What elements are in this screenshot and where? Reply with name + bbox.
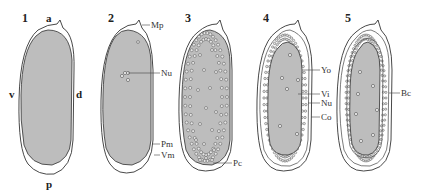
nucleus	[219, 122, 222, 125]
nucleus	[358, 70, 361, 73]
nucleus	[275, 39, 277, 41]
nucleus	[264, 116, 266, 118]
nucleus	[305, 103, 307, 105]
nucleus	[370, 40, 372, 42]
nucleus	[216, 137, 219, 140]
label-co: Co	[321, 112, 332, 122]
nucleus	[292, 154, 294, 156]
nucleus	[265, 122, 267, 124]
nucleus	[385, 86, 387, 88]
nucleus	[377, 48, 379, 50]
nucleus	[189, 105, 192, 108]
panel-number-3: 3	[185, 11, 191, 25]
nucleus	[354, 112, 357, 115]
nucleus	[195, 39, 198, 42]
nucleus	[221, 96, 224, 99]
nucleus	[199, 123, 202, 126]
panel-number-5: 5	[345, 11, 351, 25]
nucleus	[295, 132, 298, 135]
nucleus	[224, 70, 227, 73]
panel-1: 1 a v d p	[9, 11, 82, 190]
nucleus	[190, 122, 193, 125]
nucleus	[198, 35, 201, 38]
nucleus	[205, 107, 208, 110]
nucleus	[379, 51, 381, 53]
nucleus	[184, 96, 187, 99]
nucleus	[277, 37, 279, 39]
label-nu: Nu	[321, 98, 332, 108]
nucleus	[371, 84, 374, 87]
nucleus	[263, 110, 265, 112]
nucleus	[193, 55, 196, 58]
panel-number-4: 4	[263, 11, 269, 25]
nucleus	[195, 139, 198, 142]
nucleus	[203, 159, 206, 162]
nucleus	[217, 43, 220, 46]
nucleus	[266, 65, 268, 67]
nucleus	[184, 104, 187, 107]
nucleus	[264, 77, 266, 79]
nucleus	[189, 96, 192, 99]
nucleus	[190, 49, 193, 52]
nucleus	[189, 113, 192, 116]
nucleus	[220, 105, 223, 108]
nucleus	[268, 55, 270, 57]
nucleus	[355, 41, 357, 43]
nucleus	[187, 62, 190, 65]
nucleus	[216, 55, 219, 58]
nucleus	[219, 69, 222, 72]
nucleus	[190, 142, 193, 145]
nucleus	[285, 87, 288, 90]
nucleus	[184, 78, 187, 81]
nucleus	[187, 129, 190, 132]
nucleus	[190, 69, 193, 72]
nucleus	[225, 104, 228, 107]
nucleus	[185, 70, 188, 73]
label-pc: Pc	[233, 158, 242, 168]
nucleus	[217, 148, 220, 151]
panel-5: 5 Bc	[337, 11, 411, 171]
nucleus	[290, 157, 292, 159]
panel-2: 2 Mp Nu Pm Vm	[101, 11, 175, 173]
nucleus	[211, 159, 214, 162]
nucleus	[213, 149, 216, 152]
nucleus	[185, 121, 188, 124]
panel-4: 4 Yo Vi Nu Co	[257, 11, 333, 171]
nucleus	[195, 152, 198, 155]
nucleus	[126, 78, 129, 81]
nucleus	[184, 113, 187, 116]
panel-number-1: 1	[22, 11, 28, 25]
nucleus	[280, 76, 283, 79]
label-mp: Mp	[151, 20, 164, 30]
nucleus	[263, 103, 265, 105]
nucleus	[197, 147, 200, 150]
nucleus	[303, 71, 305, 73]
nucleus	[214, 39, 217, 42]
nucleus	[265, 71, 267, 73]
nucleus	[225, 87, 228, 90]
nucleus	[212, 44, 215, 47]
nucleus	[304, 110, 306, 112]
nucleus	[267, 60, 269, 62]
nucleus	[188, 136, 191, 139]
nucleus	[199, 159, 202, 162]
nucleus	[215, 71, 218, 74]
axis-label-dorsal: d	[76, 88, 82, 100]
label-nu: Nu	[161, 68, 172, 78]
nucleus	[195, 142, 198, 145]
nucleus	[222, 129, 225, 132]
nucleus	[203, 69, 206, 72]
nucleus	[221, 136, 224, 139]
nucleus	[375, 108, 378, 111]
nucleus	[275, 154, 277, 156]
nucleus	[137, 41, 140, 44]
panel-3: 3 Pc	[179, 11, 242, 171]
yolk-mass	[268, 42, 302, 155]
yolk-mass	[103, 30, 151, 165]
nucleus	[192, 130, 195, 133]
nucleus	[385, 97, 387, 99]
panel-number-2: 2	[108, 11, 114, 25]
axis-label-posterior: p	[46, 178, 52, 190]
nucleus	[209, 40, 212, 43]
nucleus	[384, 75, 386, 77]
